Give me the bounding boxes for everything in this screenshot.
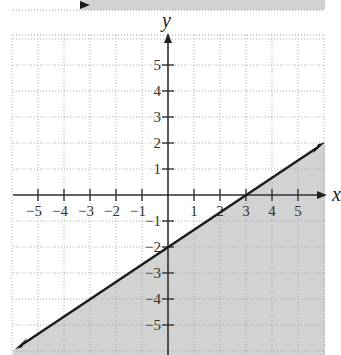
y-tick-label: −1 xyxy=(145,213,161,229)
x-tick-label: −3 xyxy=(78,203,94,219)
y-axis-label: y xyxy=(160,9,171,32)
x-axis-label: x xyxy=(331,183,341,205)
x-tick-label: 3 xyxy=(242,203,250,219)
y-tick-label: 2 xyxy=(154,135,162,151)
y-tick-label: −3 xyxy=(145,265,161,281)
inequality-graph: xy−5−4−3−2−11234554321−1−2−3−4−5 xyxy=(0,0,341,355)
x-tick-label: −4 xyxy=(52,203,68,219)
y-tick-label: −4 xyxy=(145,291,161,307)
previous-graph-shade xyxy=(80,0,325,10)
y-tick-label: 5 xyxy=(154,57,162,73)
x-tick-label: 4 xyxy=(268,203,276,219)
y-tick-label: 1 xyxy=(154,161,162,177)
x-tick-label: −2 xyxy=(104,203,120,219)
x-tick-label: −1 xyxy=(130,203,146,219)
y-tick-label: 3 xyxy=(154,109,162,125)
x-tick-label: −5 xyxy=(26,203,42,219)
y-axis-arrow-icon xyxy=(164,33,172,43)
x-tick-label: 5 xyxy=(294,203,302,219)
x-tick-label: 1 xyxy=(190,203,198,219)
y-tick-label: 4 xyxy=(154,83,162,99)
y-tick-label: −5 xyxy=(145,317,161,333)
